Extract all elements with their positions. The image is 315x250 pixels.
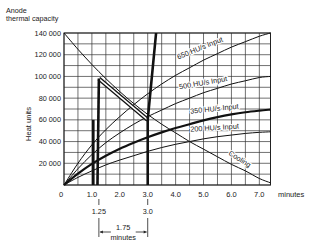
annotation-label: 650 HU/s Input: [176, 35, 225, 62]
x-axis-ticks: 01.02.03.04.05.06.07.0: [59, 190, 265, 199]
y-axis-label: Heat units: [24, 107, 33, 141]
chart-title-line-2: thermal capacity: [6, 15, 58, 23]
x-tick-label: 2.0: [115, 190, 125, 199]
series-350-hu-s-input: [64, 110, 271, 185]
annotation-label: Cooling: [227, 149, 253, 170]
x-tick-label: 3.0: [142, 190, 152, 199]
y-tick-label: 60 000: [39, 115, 61, 124]
annotation-label: minutes: [110, 233, 136, 242]
y-tick-label: 20 000: [39, 159, 61, 168]
x-axis-label: minutes: [278, 190, 305, 199]
series-exposure-rise-at-1-25-min: [97, 79, 98, 185]
chart-canvas: 20 00040 00060 00080 000100 000120 00014…: [0, 0, 315, 250]
anode-thermal-chart: Anode thermal capacity 20 00040 00060 00…: [0, 0, 315, 250]
annotation-label: 1.75: [116, 223, 130, 232]
y-axis-ticks: 20 00040 00060 00080 000100 000120 00014…: [35, 29, 61, 168]
x-tick-label: 0: [59, 190, 63, 199]
y-tick-label: 140 000: [35, 29, 61, 38]
x-tick-label: 5.0: [198, 190, 208, 199]
x-tick-label: 1.0: [87, 190, 97, 199]
x-tick-label: 6.0: [226, 190, 236, 199]
y-tick-label: 80 000: [39, 94, 61, 103]
x-tick-label: 7.0: [254, 190, 264, 199]
x-tick-label: 4.0: [170, 190, 180, 199]
y-tick-label: 120 000: [35, 50, 61, 59]
y-tick-label: 100 000: [35, 72, 61, 81]
y-tick-label: 40 000: [39, 137, 61, 146]
annotation-label: 3.0: [143, 207, 153, 216]
annotation-label: 1.25: [92, 207, 106, 216]
